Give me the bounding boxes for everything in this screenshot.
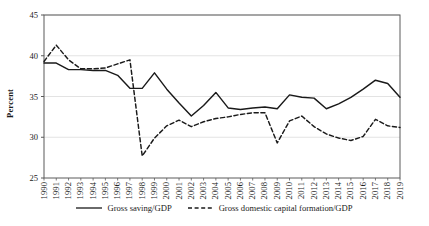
- legend-swatch-solid-icon: [76, 204, 102, 212]
- y-tick-label: 30: [20, 133, 38, 142]
- x-tick-label: 1999: [150, 182, 159, 199]
- x-tick-label: 2018: [383, 182, 392, 199]
- y-tick-label: 40: [20, 52, 38, 61]
- y-axis-title: Percent: [2, 68, 18, 138]
- x-tick-label: 1993: [76, 182, 85, 199]
- x-tick-label: 2004: [211, 182, 220, 199]
- x-tick-label: 2005: [224, 182, 233, 199]
- chart-figure: Percent Gross saving/GDP Gross domestic …: [0, 0, 429, 226]
- x-tick-label: 2017: [371, 182, 380, 199]
- y-tick-label: 25: [20, 174, 38, 183]
- x-tick-label: 1995: [101, 182, 110, 199]
- x-tick-label: 2010: [285, 182, 294, 199]
- x-tick-label: 1998: [138, 182, 147, 199]
- legend-item-capital-formation: Gross domestic capital formation/GDP: [188, 203, 353, 213]
- y-tick-label: 35: [20, 93, 38, 102]
- x-tick-label: 2000: [162, 182, 171, 199]
- x-tick-label: 1992: [64, 182, 73, 199]
- legend-item-gross-saving: Gross saving/GDP: [76, 203, 171, 213]
- x-tick-label: 2002: [187, 182, 196, 199]
- x-tick-label: 2007: [248, 182, 257, 199]
- x-tick-label: 1994: [89, 182, 98, 199]
- x-tick-label: 2015: [346, 182, 355, 199]
- x-tick-label: 1997: [125, 182, 134, 199]
- x-tick-label: 2003: [199, 182, 208, 199]
- legend-label-gross-saving: Gross saving/GDP: [107, 203, 171, 213]
- x-tick-label: 2012: [310, 182, 319, 199]
- x-tick-label: 2019: [396, 182, 405, 199]
- x-tick-label: 2014: [334, 182, 343, 199]
- x-tick-label: 1991: [52, 182, 61, 199]
- legend-swatch-dashed-icon: [188, 204, 214, 212]
- x-tick-label: 2011: [297, 182, 306, 199]
- legend-label-capital-formation: Gross domestic capital formation/GDP: [219, 203, 353, 213]
- series-line-gross-saving: [44, 63, 400, 116]
- y-tick-label: 45: [20, 11, 38, 20]
- x-tick-label: 2006: [236, 182, 245, 199]
- x-tick-label: 1990: [40, 182, 49, 199]
- x-tick-label: 2013: [322, 182, 331, 199]
- chart-legend: Gross saving/GDP Gross domestic capital …: [0, 203, 429, 223]
- x-tick-label: 2009: [273, 182, 282, 199]
- x-tick-label: 2008: [260, 182, 269, 199]
- x-tick-label: 2001: [175, 182, 184, 199]
- x-tick-label: 2016: [359, 182, 368, 199]
- x-tick-label: 1996: [113, 182, 122, 199]
